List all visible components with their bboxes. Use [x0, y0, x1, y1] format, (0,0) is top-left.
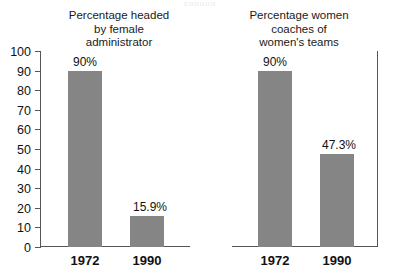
bar-right-1990[interactable]	[320, 154, 354, 247]
bar-left-1990[interactable]	[130, 216, 164, 247]
y-tick-label-20: 20	[17, 203, 31, 216]
y-tick-0: 0	[35, 247, 41, 248]
y-tick-label-30: 30	[17, 183, 31, 196]
plot-area-right: 90% 1972 47.3% 1990	[232, 51, 378, 247]
figure: cuuuuu Percentage headed by female admin…	[0, 0, 395, 274]
bar-left-1972[interactable]	[68, 71, 102, 247]
y-tick-70: 70	[35, 110, 41, 111]
x-category-right-1990: 1990	[323, 254, 352, 267]
chart-panel-left: Percentage headed by female administrato…	[0, 0, 197, 274]
bar-value-right-1990: 47.3%	[322, 139, 356, 151]
y-axis-right	[377, 51, 378, 247]
y-tick-20: 20	[35, 208, 41, 209]
x-category-right-1972: 1972	[261, 254, 290, 267]
y-tick-80: 80	[35, 90, 41, 91]
chart-title-left: Percentage headed by female administrato…	[44, 9, 194, 50]
x-category-left-1990: 1990	[133, 254, 162, 267]
y-tick-60: 60	[35, 129, 41, 130]
y-tick-30: 30	[35, 188, 41, 189]
y-tick-90: 90	[35, 71, 41, 72]
y-tick-label-60: 60	[17, 124, 31, 137]
bar-value-left-1990: 15.9%	[133, 201, 167, 213]
bar-value-left-1972: 90%	[73, 56, 97, 68]
y-tick-label-70: 70	[17, 105, 31, 118]
chart-title-right: Percentage women coaches of women's team…	[223, 9, 375, 50]
x-axis-right	[232, 246, 378, 247]
bar-right-1972[interactable]	[258, 71, 292, 247]
y-tick-label-90: 90	[17, 65, 31, 78]
y-axis-left: 100 90 80 70 60 50 40	[40, 51, 41, 247]
y-tick-50: 50	[35, 149, 41, 150]
x-axis-left	[40, 246, 190, 247]
y-tick-100: 100	[35, 51, 41, 52]
y-tick-40: 40	[35, 169, 41, 170]
y-tick-label-50: 50	[17, 144, 31, 157]
plot-area-left: 100 90 80 70 60 50 40	[40, 51, 190, 247]
x-category-left-1972: 1972	[71, 254, 100, 267]
chart-panel-right: Percentage women coaches of women's team…	[197, 0, 395, 274]
y-tick-label-0: 0	[24, 242, 31, 255]
y-tick-label-40: 40	[17, 163, 31, 176]
y-tick-label-100: 100	[10, 46, 31, 59]
y-tick-label-10: 10	[17, 222, 31, 235]
y-tick-10: 10	[35, 227, 41, 228]
bar-value-right-1972: 90%	[263, 56, 287, 68]
y-tick-label-80: 80	[17, 85, 31, 98]
